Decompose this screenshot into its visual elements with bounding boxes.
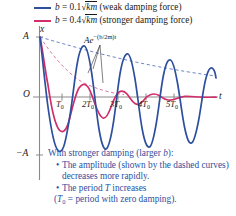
tick-label-2t0: 2T0: [82, 99, 94, 110]
legend: b = 0.1√km (weak damping force) b = 0.4√…: [34, 1, 236, 27]
envelope-equation-label: Ae−(b/2m)t: [84, 33, 116, 45]
x-axis-label: t: [219, 91, 222, 101]
legend-eq-strong: = 0.4: [62, 15, 81, 25]
legend-radicand-strong: km: [85, 14, 97, 25]
legend-swatch-weak-icon: [34, 7, 51, 9]
tick-label-3t0: 3T0: [110, 99, 122, 110]
legend-swatch-strong-icon: [34, 20, 51, 22]
caption-bullet-1-text: The amplitude (shown by the dashed curve…: [62, 160, 229, 182]
caption-bullet-1: The amplitude (shown by the dashed curve…: [56, 160, 234, 183]
caption-heading-var: b: [163, 148, 168, 158]
legend-var-weak: b: [55, 2, 60, 12]
legend-item-weak-damping: b = 0.1√km (weak damping force): [34, 1, 236, 14]
envelope-curves: [40, 37, 216, 95]
envelope-exponent: −(b/2m)t: [94, 33, 117, 40]
legend-radicand-weak: km: [85, 1, 97, 12]
envelope-base: Ae: [84, 35, 94, 45]
caption-bullet-2: The period T increases: [56, 183, 234, 195]
legend-var-strong: b: [55, 15, 60, 25]
tick-label-t0: T0: [56, 99, 64, 110]
curve-strong-damping: [40, 37, 216, 132]
tick-label-5t0: 5T0: [166, 99, 178, 110]
caption-heading: With stronger damping (larger b):: [48, 148, 234, 160]
y-axis-label: x: [40, 24, 44, 34]
damped-oscillation-figure: b = 0.1√km (weak damping force) b = 0.4√…: [0, 0, 236, 216]
caption-bullet-list: The amplitude (shown by the dashed curve…: [48, 160, 234, 195]
caption-subline: (T0 = period with zero damping).: [48, 194, 234, 207]
amplitude-top-label: A: [23, 31, 29, 41]
envelope-strong-upper: [40, 37, 124, 95]
caption-bullet-2-var: T: [105, 183, 110, 193]
legend-item-strong-damping: b = 0.4√km (stronger damping force): [34, 14, 236, 27]
amplitude-bottom-label: −A: [16, 148, 28, 158]
tick-label-4t0: 4T0: [138, 99, 150, 110]
legend-eq-weak: = 0.1: [62, 2, 81, 12]
legend-desc-strong: (stronger damping force): [99, 15, 192, 25]
legend-label-weak: b = 0.1√km (weak damping force): [55, 2, 182, 13]
legend-desc-weak: (weak damping force): [99, 2, 181, 12]
origin-label: O: [23, 89, 30, 99]
caption-block: With stronger damping (larger b): The am…: [48, 148, 234, 208]
legend-label-strong: b = 0.4√km (stronger damping force): [55, 15, 192, 26]
